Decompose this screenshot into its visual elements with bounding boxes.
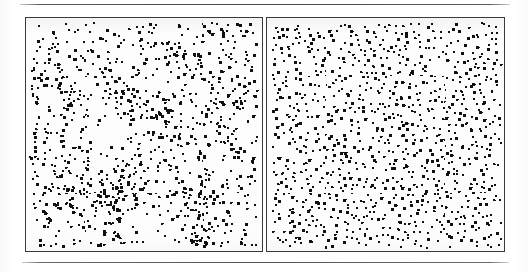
panel-clustered-point-pattern	[25, 17, 263, 252]
plot-area-left	[26, 18, 262, 251]
scatter-canvas-clustered	[26, 18, 262, 251]
panel-regular-point-pattern	[266, 17, 505, 252]
figure-page	[0, 0, 528, 272]
two-panel-figure	[0, 0, 528, 272]
scatter-canvas-regular	[267, 18, 504, 251]
plot-area-right	[267, 18, 504, 251]
bottom-horizontal-rule	[22, 262, 509, 263]
